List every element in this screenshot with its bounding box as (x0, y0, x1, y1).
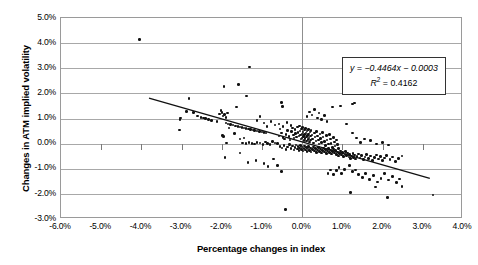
x-tick-label: 1.0% (319, 222, 363, 231)
x-tick-label: -4.0% (118, 222, 162, 231)
trendline (61, 18, 461, 217)
x-tick-label: 3.0% (400, 222, 444, 231)
y-tick-label: 5.0% (16, 13, 56, 22)
x-axis-tick-labels: -6.0%-5.0%-4.0%-3.0%-2.0%-1.0%0.0%1.0%2.… (0, 222, 478, 236)
y-tick-label: 3.0% (16, 63, 56, 72)
x-tick-label: 0.0% (279, 222, 323, 231)
y-tick-label: 2.0% (16, 88, 56, 97)
regression-annotation-box: y = −0.4464x − 0.0003 R2 = 0.4162 (342, 57, 446, 95)
x-tick-label: -3.0% (159, 222, 203, 231)
x-tick-label: -1.0% (239, 222, 283, 231)
x-tick-label: -2.0% (199, 222, 243, 231)
regression-line (149, 98, 430, 178)
r-squared-number: = 0.4162 (380, 78, 417, 88)
x-axis-title: Percentage changes in index (60, 243, 462, 254)
y-tick-label: 0.0% (16, 138, 56, 147)
x-tick-label: -5.0% (78, 222, 122, 231)
y-tick-label: -1.0% (16, 163, 56, 172)
y-tick-label: 4.0% (16, 38, 56, 47)
x-tick-label: -6.0% (38, 222, 82, 231)
regression-equation: y = −0.4464x − 0.0003 (350, 62, 438, 74)
equation-body: = −0.4464x − 0.0003 (354, 63, 437, 73)
x-tick-label: 4.0% (440, 222, 478, 231)
y-tick-label: -2.0% (16, 189, 56, 198)
y-tick-label: 1.0% (16, 113, 56, 122)
r-squared-value: R2 = 0.4162 (350, 74, 438, 89)
x-tick-label: 2.0% (360, 222, 404, 231)
plot-area (60, 17, 462, 218)
scatter-chart-figure: Changes in ATM implied volatility 5.0%4.… (0, 0, 478, 265)
